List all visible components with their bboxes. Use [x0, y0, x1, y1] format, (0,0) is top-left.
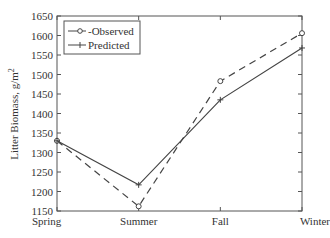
x-tick-label: Winter [300, 215, 330, 227]
legend: -ObservedPredicted [64, 21, 140, 54]
line-chart: 1150120012501300135014001450150015501600… [0, 0, 330, 238]
observed-marker [300, 31, 305, 36]
y-tick-label: 1250 [31, 166, 54, 178]
y-tick-label: 1450 [31, 88, 54, 100]
y-tick-label: 1500 [31, 69, 54, 81]
x-tick-label: Fall [212, 215, 229, 227]
legend-label: Predicted [88, 39, 130, 51]
series-observed-line [57, 33, 302, 206]
y-tick-label: 1550 [31, 49, 54, 61]
y-tick-label: 1650 [31, 10, 54, 22]
legend-label: -Observed [88, 25, 134, 37]
observed-marker [136, 204, 141, 209]
observed-marker [218, 79, 223, 84]
y-axis-title: Litter Biomass, g/m2 [7, 68, 20, 160]
series-predicted-line [57, 48, 302, 185]
y-tick-label: 1600 [31, 30, 54, 42]
y-tick-label: 1400 [31, 108, 54, 120]
y-tick-label: 1200 [31, 186, 54, 198]
data-series [54, 31, 305, 209]
y-tick-label: 1350 [31, 127, 54, 139]
x-tick-label: Spring [32, 215, 62, 227]
legend-circle-icon [78, 29, 83, 34]
y-tick-label: 1300 [31, 147, 54, 159]
x-tick-label: Summer [120, 215, 158, 227]
